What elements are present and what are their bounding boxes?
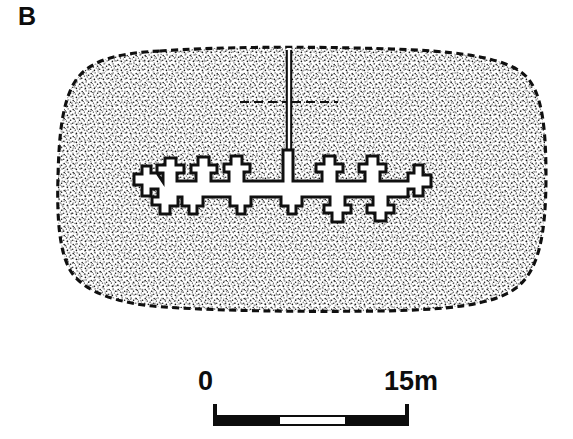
scale-label-max: 15m bbox=[384, 368, 438, 395]
scale-bar-group: 0 15m bbox=[0, 360, 573, 439]
figure-panel: B bbox=[0, 0, 573, 439]
scale-bar-white-segment bbox=[280, 417, 345, 424]
scale-label-min: 0 bbox=[198, 368, 213, 395]
scale-bar bbox=[213, 404, 409, 426]
